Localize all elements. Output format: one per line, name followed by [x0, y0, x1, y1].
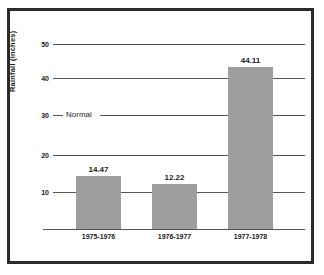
gridline-50 — [53, 44, 305, 45]
y-tick-label-10: 10 — [33, 189, 49, 196]
x-category-label-1975-1976: 1975-1976 — [68, 233, 129, 240]
y-tick-label-30: 30 — [33, 112, 49, 119]
normal-annotation-label: Normal — [66, 110, 92, 119]
bar-chart-plot-area: Rainfall (inches) 50 40 30 Normal 20 10 … — [0, 0, 324, 275]
y-tick-label-50: 50 — [33, 41, 49, 48]
bar-1976-1977[interactable] — [152, 184, 197, 229]
chart-screenshot: Rainfall (inches) 50 40 30 Normal 20 10 … — [0, 0, 324, 275]
bar-1977-1978[interactable] — [228, 67, 273, 229]
gridline-30 — [100, 115, 305, 116]
bar-value-1977-1978: 44.11 — [228, 56, 273, 65]
y-tick-label-40: 40 — [33, 75, 49, 82]
x-category-label-1976-1977: 1976-1977 — [144, 233, 205, 240]
axis-baseline — [43, 229, 305, 230]
x-category-label-1977-1978: 1977-1978 — [220, 233, 281, 240]
bar-1975-1976[interactable] — [76, 176, 121, 229]
bar-value-1976-1977: 12.22 — [152, 173, 197, 182]
y-axis-title: Rainfall (inches) — [8, 0, 17, 92]
bar-value-1975-1976: 14.47 — [76, 165, 121, 174]
normal-line-dash — [53, 115, 63, 116]
y-tick-label-20: 20 — [33, 152, 49, 159]
